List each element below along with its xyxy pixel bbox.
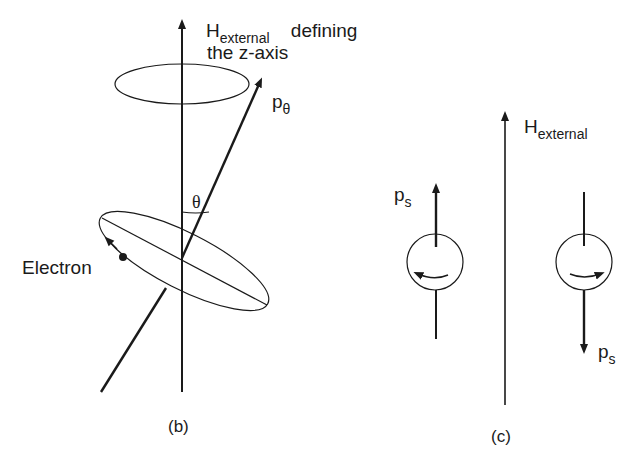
spin-down-rotation-arrow	[570, 274, 600, 277]
p-symbol: p	[272, 91, 283, 112]
theta-symbol: θ	[192, 192, 201, 212]
s-subscript-down: s	[609, 351, 616, 367]
caption-c-text: (c)	[491, 427, 511, 446]
caption-b-text: (b)	[168, 417, 189, 436]
z-axis-label: the z-axis	[207, 43, 288, 62]
defining-text: defining	[291, 20, 358, 41]
external-subscript-c: external	[538, 126, 588, 142]
h-external-label-c: Hexternal	[524, 117, 588, 136]
p-symbol-down: p	[598, 341, 609, 362]
h-external-axis-label: Hexternal defining	[206, 21, 357, 40]
h-symbol-c: H	[524, 116, 538, 137]
electron-label: Electron	[22, 258, 92, 277]
spin-up-rotation-arrow	[418, 274, 448, 278]
caption-b: (b)	[168, 418, 189, 435]
panel-c	[407, 116, 612, 405]
spin-down-label: ps	[598, 342, 616, 361]
theta-subscript: θ	[283, 101, 291, 117]
angular-momentum-vector	[182, 82, 260, 258]
spin-up-label: ps	[394, 185, 412, 204]
electron-text: Electron	[22, 257, 92, 278]
theta-angle-label: θ	[192, 193, 201, 211]
theta-arc	[182, 212, 209, 213]
h-symbol: H	[206, 20, 220, 41]
p-symbol-up: p	[394, 184, 405, 205]
electron-dot	[119, 253, 127, 261]
s-subscript-up: s	[405, 194, 412, 210]
diagram-canvas	[0, 0, 643, 456]
angular-momentum-vector-lower	[101, 288, 166, 392]
the-z-axis-text: the z-axis	[207, 42, 288, 63]
panel-b	[88, 24, 281, 392]
p-theta-label: pθ	[272, 92, 290, 111]
electron-direction-arrow	[108, 240, 117, 249]
caption-c: (c)	[491, 428, 511, 445]
